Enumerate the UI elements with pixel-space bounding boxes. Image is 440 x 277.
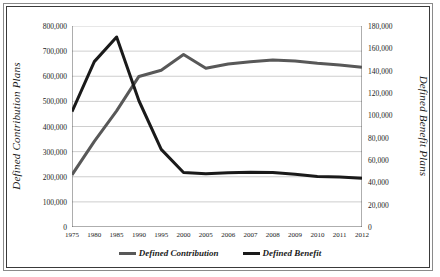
- y-axis-tick-label-right: 140,000: [368, 66, 392, 75]
- legend-swatch-defined-benefit: [243, 252, 260, 255]
- plot-svg: [72, 26, 362, 227]
- x-axis-tick-label: 2009: [288, 231, 302, 239]
- x-axis-tick-label: 1980: [87, 231, 101, 239]
- x-axis-tick-label: 1985: [110, 231, 124, 239]
- y-axis-tick-label-right: 60,000: [368, 156, 389, 165]
- legend-item-defined-benefit: Defined Benefit: [243, 248, 322, 258]
- y-axis-title-left: Defined Contribution Plans: [10, 46, 22, 206]
- y-axis-tick-label-left: 700,000: [43, 47, 67, 56]
- x-axis-tick-label: 2000: [177, 231, 191, 239]
- y-axis-tick-label-right: 40,000: [368, 178, 389, 187]
- x-axis-tick-label: 1975: [65, 231, 79, 239]
- y-axis-tick-label-left: 100,000: [43, 197, 67, 206]
- x-axis-tick-label: 2010: [310, 231, 324, 239]
- y-axis-tick-label-right: 20,000: [368, 200, 389, 209]
- x-axis-tick-label: 1990: [132, 231, 146, 239]
- x-axis-tick-label: 2005: [199, 231, 213, 239]
- x-axis-tick-label: 1995: [154, 231, 168, 239]
- legend-item-defined-contribution: Defined Contribution: [119, 248, 219, 258]
- y-axis-title-right: Defined Benefit Plans: [418, 46, 430, 206]
- x-axis-tick-label: 2012: [355, 231, 369, 239]
- plot-area: 0100,000200,000300,000400,000500,000600,…: [72, 26, 362, 227]
- x-axis-tick-label: 2008: [266, 231, 280, 239]
- y-axis-tick-label-right: 180,000: [368, 22, 392, 31]
- y-axis-tick-label-right: 160,000: [368, 44, 392, 53]
- x-axis-tick-label: 2006: [221, 231, 235, 239]
- y-axis-tick-label-right: 80,000: [368, 133, 389, 142]
- series-line-defined-benefit: [72, 37, 362, 178]
- legend-swatch-defined-contribution: [119, 252, 136, 255]
- y-axis-tick-label-left: 600,000: [43, 72, 67, 81]
- y-axis-tick-label-left: 500,000: [43, 97, 67, 106]
- y-axis-tick-label-right: 120,000: [368, 89, 392, 98]
- chart-figure: Defined Contribution Plans Defined Benef…: [0, 0, 440, 277]
- y-axis-tick-label-left: 400,000: [43, 122, 67, 131]
- x-axis-tick-label: 2011: [333, 231, 347, 239]
- legend-label-defined-contribution: Defined Contribution: [139, 248, 219, 258]
- legend-label-defined-benefit: Defined Benefit: [263, 248, 322, 258]
- series-line-defined-contribution: [72, 54, 362, 174]
- y-axis-tick-label-right: 100,000: [368, 111, 392, 120]
- y-axis-tick-label-left: 800,000: [43, 22, 67, 31]
- chart-legend: Defined Contribution Defined Benefit: [0, 248, 440, 258]
- y-axis-tick-label-left: 300,000: [43, 147, 67, 156]
- y-axis-tick-label-left: 200,000: [43, 172, 67, 181]
- x-axis-tick-label: 2007: [243, 231, 257, 239]
